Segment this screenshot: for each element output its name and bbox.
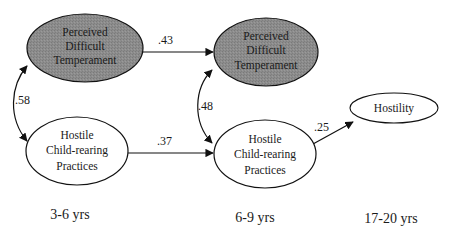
node-hostility-17-20: Hostility: [350, 93, 438, 123]
edge-hcp-early-to-hcp-mid: .37: [128, 134, 213, 153]
node-label-line: Practices: [56, 160, 98, 172]
node-label-line: Hostile: [248, 133, 281, 145]
node-label-line: Difficult: [246, 44, 286, 56]
time-label-6-9: 6-9 yrs: [235, 210, 274, 225]
coefficient-label: .48: [198, 99, 213, 113]
node-hostile-child-rearing-3-6: Hostile Child-rearing Practices: [26, 117, 128, 185]
coefficient-label: .58: [15, 93, 30, 107]
node-label-line: Temperament: [234, 59, 298, 72]
coefficient-label: .43: [158, 33, 173, 47]
coefficient-label: .25: [314, 120, 329, 134]
node-label-line: Hostile: [60, 129, 93, 141]
time-label-17-20: 17-20 yrs: [364, 211, 417, 226]
node-label-line: Child-rearing: [234, 148, 296, 161]
node-hostile-child-rearing-6-9: Hostile Child-rearing Practices: [214, 120, 316, 188]
edge-hcp-mid-to-hostility: .25: [313, 120, 353, 144]
node-label-line: Perceived: [62, 26, 108, 38]
edge-pdt-mid-hcp-mid-correlation: .48: [198, 70, 213, 143]
node-label-line: Child-rearing: [46, 144, 108, 157]
node-label-line: Perceived: [243, 30, 289, 42]
coefficient-label: .37: [157, 134, 172, 148]
node-label-line: Temperament: [53, 54, 117, 67]
node-perceived-difficult-temperament-3-6: Perceived Difficult Temperament: [27, 14, 143, 82]
node-label-line: Difficult: [65, 40, 105, 52]
node-perceived-difficult-temperament-6-9: Perceived Difficult Temperament: [214, 18, 318, 86]
node-label-line: Practices: [244, 164, 286, 176]
edge-pdt-early-to-pdt-mid: .43: [143, 33, 213, 52]
path-diagram: .43 .37 .58 .48 .25 Perceived Difficult …: [0, 0, 449, 238]
node-label-line: Hostility: [374, 102, 415, 115]
time-label-3-6: 3-6 yrs: [50, 207, 89, 222]
edge-pdt-early-hcp-early-correlation: .58: [13, 66, 30, 141]
